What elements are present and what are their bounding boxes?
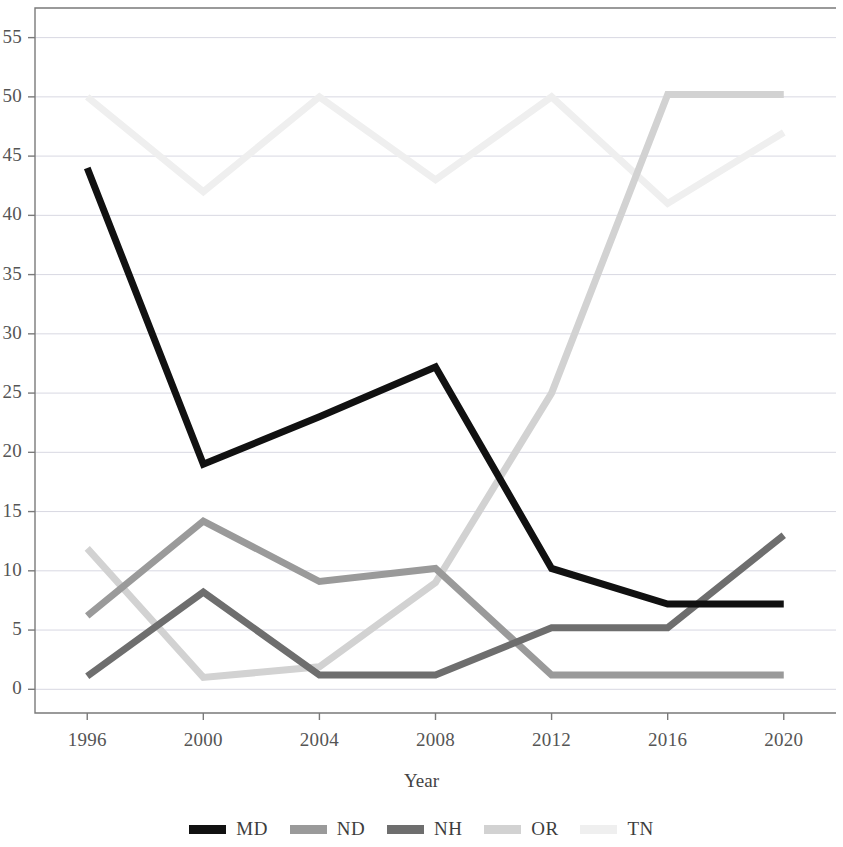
- ytick-label-5: 5: [0, 618, 22, 640]
- plot-area: [0, 0, 843, 847]
- legend-swatch-tn: [580, 825, 617, 834]
- legend-swatch-nd: [290, 825, 327, 834]
- xtick-label-2020: 2020: [739, 729, 829, 751]
- ytick-label-15: 15: [0, 500, 22, 522]
- legend-item-nd[interactable]: ND: [290, 818, 365, 840]
- xtick-label-2004: 2004: [274, 729, 364, 751]
- legend-label-md: MD: [236, 818, 267, 840]
- line-chart-figure: 0510152025303540455055 19962000200420082…: [0, 0, 843, 847]
- legend-label-or: OR: [531, 818, 558, 840]
- legend-label-nd: ND: [337, 818, 365, 840]
- series-line-md: [87, 168, 784, 604]
- ytick-label-30: 30: [0, 322, 22, 344]
- xtick-label-2012: 2012: [507, 729, 597, 751]
- ytick-label-40: 40: [0, 203, 22, 225]
- x-axis-title: Year: [0, 770, 843, 792]
- chart-legend: MDNDNHORTN: [0, 818, 843, 840]
- data-lines-group: [87, 95, 784, 678]
- legend-label-nh: NH: [434, 818, 462, 840]
- ytick-label-50: 50: [0, 85, 22, 107]
- legend-label-tn: TN: [627, 818, 653, 840]
- ytick-label-20: 20: [0, 440, 22, 462]
- legend-item-md[interactable]: MD: [189, 818, 267, 840]
- xtick-label-2016: 2016: [623, 729, 713, 751]
- legend-swatch-nh: [387, 825, 424, 834]
- legend-item-nh[interactable]: NH: [387, 818, 462, 840]
- ytick-label-25: 25: [0, 381, 22, 403]
- ytick-label-0: 0: [0, 677, 22, 699]
- ytick-label-45: 45: [0, 144, 22, 166]
- legend-swatch-or: [484, 825, 521, 834]
- legend-item-or[interactable]: OR: [484, 818, 558, 840]
- xtick-label-2000: 2000: [158, 729, 248, 751]
- xtick-label-1996: 1996: [42, 729, 132, 751]
- ytick-label-35: 35: [0, 263, 22, 285]
- series-line-tn: [87, 97, 784, 204]
- ytick-label-10: 10: [0, 559, 22, 581]
- legend-swatch-md: [189, 825, 226, 834]
- legend-item-tn[interactable]: TN: [580, 818, 653, 840]
- xtick-label-2008: 2008: [391, 729, 481, 751]
- ytick-label-55: 55: [0, 26, 22, 48]
